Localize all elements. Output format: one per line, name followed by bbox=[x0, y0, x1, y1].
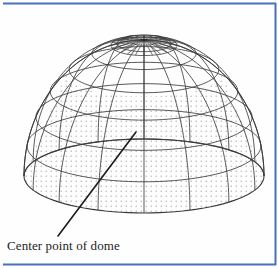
dome-drawing bbox=[0, 0, 278, 268]
center-point-caption: Center point of dome bbox=[7, 238, 120, 254]
dome-figure: Center point of dome bbox=[0, 0, 278, 268]
dome-apex-hub bbox=[111, 35, 177, 55]
